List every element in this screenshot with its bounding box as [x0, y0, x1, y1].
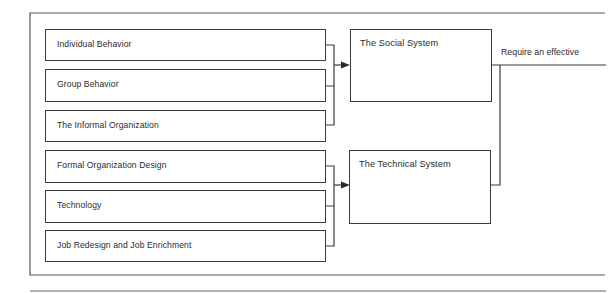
box-group-behavior: Group Behavior	[45, 69, 326, 102]
box-individual-behavior: Individual Behavior	[45, 29, 326, 61]
box-technology: Technology	[45, 190, 326, 223]
box-label: The Informal Organization	[57, 120, 159, 130]
box-label: Individual Behavior	[57, 39, 132, 49]
social-arrowhead-icon	[341, 62, 350, 69]
box-formal-organization-design: Formal Organization Design	[45, 150, 326, 183]
box-job-redesign: Job Redesign and Job Enrichment	[45, 230, 326, 262]
box-label: Group Behavior	[57, 79, 119, 89]
box-technical-system: The Technical System	[349, 150, 491, 224]
box-social-system: The Social System	[350, 29, 492, 102]
box-label: Job Redesign and Job Enrichment	[57, 240, 191, 250]
box-label: Formal Organization Design	[57, 160, 167, 170]
system-label: The Social System	[360, 38, 438, 48]
output-label: Require an effective	[501, 47, 579, 57]
social-bracket	[325, 45, 334, 125]
box-informal-organization: The Informal Organization	[45, 110, 326, 142]
box-label: Technology	[57, 200, 101, 210]
system-label: The Technical System	[359, 159, 451, 169]
technical-bracket	[325, 166, 334, 246]
